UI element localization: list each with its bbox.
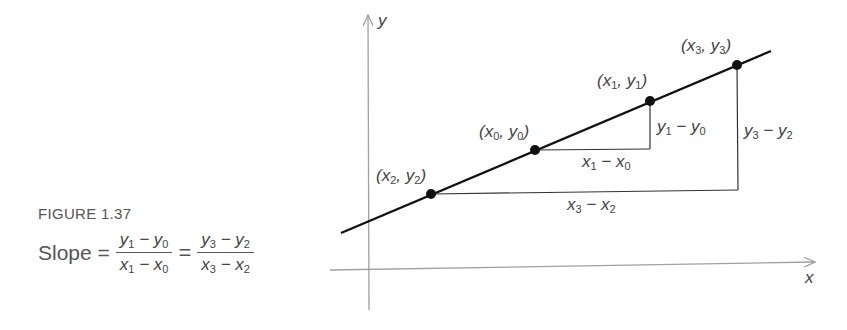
fraction-1: y1 − y0 x1 − x0 (116, 230, 173, 275)
fraction-1-numerator: y1 − y0 (116, 230, 173, 253)
run-large-line (431, 190, 738, 194)
x-axis-label: x (805, 268, 814, 288)
point-p2 (426, 189, 436, 199)
slope-label: Slope = (38, 241, 110, 265)
x-axis (330, 262, 815, 270)
run-small-line (535, 149, 650, 150)
point-p0 (530, 145, 540, 155)
y-axis (368, 15, 369, 310)
run-small-label: x1 − x0 (582, 152, 631, 172)
point-label-p0: (x0, y0) (479, 122, 529, 142)
figure-caption: FIGURE 1.37 (38, 205, 131, 222)
point-p1 (645, 96, 655, 106)
fraction-2-numerator: y3 − y2 (197, 230, 254, 253)
fraction-2: y3 − y2 x3 − x2 (197, 230, 254, 275)
run-large-label: x3 − x2 (567, 195, 616, 215)
point-p3 (732, 60, 742, 70)
slope-formula: Slope = y1 − y0 x1 − x0 = y3 − y2 x3 − x… (38, 230, 254, 275)
equals-sign: = (178, 240, 191, 266)
fraction-1-denominator: x1 − x0 (116, 253, 173, 275)
rise-small-label: y1 − y0 (657, 117, 706, 137)
rise-large-line (737, 65, 738, 190)
slope-line (341, 51, 771, 233)
y-axis-label: y (378, 11, 387, 31)
point-label-p3: (x3, y3) (681, 36, 731, 56)
point-label-p2: (x2, y2) (376, 166, 426, 186)
rise-large-label: y3 − y2 (744, 121, 793, 141)
point-label-p1: (x1, y1) (597, 71, 647, 91)
fraction-2-denominator: x3 − x2 (197, 253, 254, 275)
